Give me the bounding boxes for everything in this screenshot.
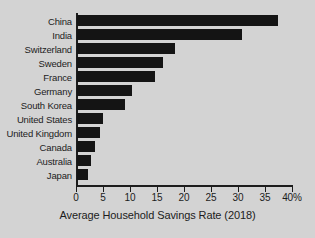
category-label: France bbox=[43, 72, 72, 83]
category-label: Canada bbox=[40, 142, 72, 153]
bar bbox=[77, 113, 103, 124]
x-tick-label: 15 bbox=[152, 192, 163, 203]
bar bbox=[77, 43, 175, 54]
bar bbox=[77, 71, 155, 82]
category-label: Sweden bbox=[39, 58, 72, 69]
category-label: United States bbox=[17, 114, 72, 125]
x-tick-label: 30 bbox=[233, 192, 244, 203]
bar bbox=[77, 169, 88, 180]
x-tick-label: 5 bbox=[100, 192, 105, 203]
bar bbox=[77, 29, 242, 40]
category-label: Japan bbox=[47, 170, 72, 181]
x-tick-label: 20 bbox=[179, 192, 190, 203]
bar bbox=[77, 57, 163, 68]
bar bbox=[77, 99, 125, 110]
bar bbox=[77, 141, 95, 152]
x-axis-title: Average Household Savings Rate (2018) bbox=[0, 209, 315, 221]
category-label: Switzerland bbox=[25, 44, 72, 55]
category-label: South Korea bbox=[21, 100, 72, 111]
bar bbox=[77, 155, 91, 166]
category-label: India bbox=[52, 30, 72, 41]
category-label: China bbox=[48, 16, 72, 27]
x-tick-label: 0 bbox=[73, 192, 78, 203]
category-label: Germany bbox=[34, 86, 72, 97]
bar bbox=[77, 15, 278, 26]
x-tick-label: 35 bbox=[260, 192, 271, 203]
bar bbox=[77, 85, 132, 96]
x-tick-label: 10 bbox=[125, 192, 136, 203]
x-tick-label: 40% bbox=[282, 192, 302, 203]
bar bbox=[77, 127, 100, 138]
bar-chart: ChinaIndiaSwitzerlandSwedenFranceGermany… bbox=[0, 0, 315, 238]
category-label: United Kingdom bbox=[7, 128, 73, 139]
x-tick-label: 25 bbox=[206, 192, 217, 203]
category-label: Australia bbox=[36, 156, 72, 167]
